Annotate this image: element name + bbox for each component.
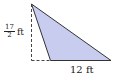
obtuse-triangle [32,4,112,61]
height-fraction: 17 2 [4,24,15,39]
height-unit: ft [17,27,24,37]
triangle-figure [0,0,115,81]
base-label: 12 ft [70,64,94,75]
triangle-diagram: 17 2 ft 12 ft [0,0,115,81]
height-denominator: 2 [7,32,11,39]
height-label: 17 2 ft [4,24,24,39]
